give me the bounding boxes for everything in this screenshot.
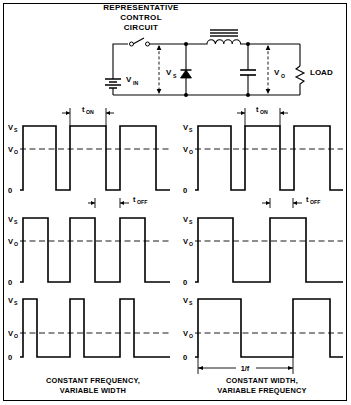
junction-dot-diode <box>184 42 188 46</box>
zero-axis-label: 0 <box>8 186 12 195</box>
vo-axis-sub-r3: O <box>189 333 193 339</box>
t-on-label-left: t <box>82 105 85 114</box>
waveform-trace-left-1 <box>20 126 170 190</box>
junction-dot-cap <box>246 42 250 46</box>
diode-triangle <box>181 70 192 78</box>
vo-arrowhead-bottom <box>266 89 271 94</box>
zero-axis-label-l2: 0 <box>8 278 12 287</box>
vs-arrowhead-top <box>157 45 162 50</box>
vo-axis-sub: O <box>14 149 18 155</box>
vo-arrowhead-top <box>266 45 271 50</box>
axis-labels-right-3: V S V O 0 <box>183 296 193 362</box>
waveform-trace-right-3 <box>195 299 343 357</box>
caption-left-line-2: VARIABLE WIDTH <box>60 386 126 395</box>
t-off-label-left: t <box>133 195 136 204</box>
waveform-right-row-1: V S V O 0 t ON <box>183 105 343 195</box>
title-line-2: CONTROL <box>120 13 162 22</box>
junction-dot-cap-bottom <box>246 93 250 97</box>
t-off-arrowhead-ra <box>266 201 270 205</box>
caption-right-line-2: VARIABLE FREQUENCY <box>217 386 306 395</box>
switch-contact-left <box>130 42 134 46</box>
caption-right-line-1: CONSTANT WIDTH, <box>226 376 298 385</box>
period-arrowhead-b <box>288 366 293 370</box>
waveform-trace-left-2 <box>20 218 170 282</box>
caption-left-line-1: CONSTANT FREQUENCY, <box>46 376 140 385</box>
waveform-left-row-3: V S V O 0 <box>8 296 170 362</box>
waveform-trace-left-3 <box>20 299 170 357</box>
figure-canvas: REPRESENTATIVE CONTROL CIRCUIT <box>0 0 351 405</box>
v-s-label: V <box>166 68 172 77</box>
waveform-trace-right-2 <box>195 218 343 282</box>
vs-measurement-arrow <box>157 45 162 94</box>
t-on-label-right: t <box>256 105 259 114</box>
caption-right: CONSTANT WIDTH, VARIABLE FREQUENCY <box>217 376 306 395</box>
vs-axis-sub-r3: S <box>189 300 193 306</box>
junction-dot-diode-bottom <box>184 93 188 97</box>
axis-labels-left-1: V S V O 0 <box>8 123 18 195</box>
load-resistor-zigzag <box>296 66 304 95</box>
wire-battery-to-switch <box>113 44 128 72</box>
t-off-label-right: t <box>306 195 309 204</box>
t-on-sub-right: ON <box>260 109 268 115</box>
t-off-arrowhead-rb <box>293 201 297 205</box>
v-o-label: V <box>274 68 280 77</box>
t-on-arrowhead-b <box>106 111 110 115</box>
v-s-subscript: S <box>173 73 177 79</box>
vs-axis-sub-r2: S <box>189 219 193 225</box>
inductor-coil <box>200 40 248 44</box>
t-off-sub-left: OFF <box>137 199 147 205</box>
load-label: LOAD <box>310 68 333 77</box>
t-off-dimension-left <box>88 198 129 208</box>
vo-axis-sub-l2: O <box>14 241 18 247</box>
vo-axis-sub-r1: O <box>189 149 193 155</box>
t-off-arrowhead-a <box>91 201 95 205</box>
waveform-left-row-2: V S V O 0 t OFF <box>8 195 170 287</box>
v-in-subscript: IN <box>133 80 138 86</box>
t-on-arrowhead-ra <box>241 111 245 115</box>
title-line-3: CIRCUIT <box>124 23 159 32</box>
t-off-arrowhead-b <box>120 201 124 205</box>
t-on-arrowhead-rb <box>280 111 284 115</box>
title-line-1: REPRESENTATIVE <box>103 3 179 12</box>
zero-axis-label-r3: 0 <box>183 353 187 362</box>
t-on-arrowhead-a <box>66 111 70 115</box>
switch-contact-right <box>146 42 150 46</box>
t-off-sub-right: OFF <box>310 199 320 205</box>
axis-labels-left-2: V S V O 0 <box>8 215 18 287</box>
vs-axis-sub-l3: S <box>14 300 18 306</box>
vo-measurement-arrow <box>266 45 271 94</box>
axis-labels-right-2: V S V O 0 <box>183 215 193 287</box>
figure-title: REPRESENTATIVE CONTROL CIRCUIT <box>103 3 179 32</box>
zero-axis-label-l3: 0 <box>8 353 12 362</box>
vs-arrowhead-bottom <box>157 89 162 94</box>
t-off-dimension-right <box>262 198 302 208</box>
vs-axis-sub-r1: S <box>189 127 193 133</box>
axis-labels-left-3: V S V O 0 <box>8 296 18 362</box>
axis-labels-right-1: V S V O 0 <box>183 123 193 195</box>
period-arrowhead-a <box>198 366 203 370</box>
vs-axis-sub: S <box>14 127 18 133</box>
zero-axis-label-r2: 0 <box>183 278 187 287</box>
caption-left: CONSTANT FREQUENCY, VARIABLE WIDTH <box>46 376 140 395</box>
zero-axis-label-r1: 0 <box>183 186 187 195</box>
circuit-schematic <box>105 30 304 97</box>
waveform-right-row-3: V S V O 0 1/f <box>183 296 343 374</box>
figure-root: REPRESENTATIVE CONTROL CIRCUIT <box>0 0 351 405</box>
t-on-sub-left: ON <box>86 109 94 115</box>
waveform-trace-right-1 <box>195 126 343 190</box>
switch-blade <box>133 38 144 44</box>
vs-axis-sub-l2: S <box>14 219 18 225</box>
vo-axis-sub-r2: O <box>189 241 193 247</box>
period-label: 1/f <box>241 364 250 373</box>
v-o-subscript: O <box>281 73 285 79</box>
v-in-label: V <box>126 75 132 84</box>
vo-axis-sub-l3: O <box>14 333 18 339</box>
waveform-left-row-1: V S V O 0 t ON <box>8 105 170 195</box>
waveform-right-row-2: V S V O 0 t OFF <box>183 195 343 287</box>
